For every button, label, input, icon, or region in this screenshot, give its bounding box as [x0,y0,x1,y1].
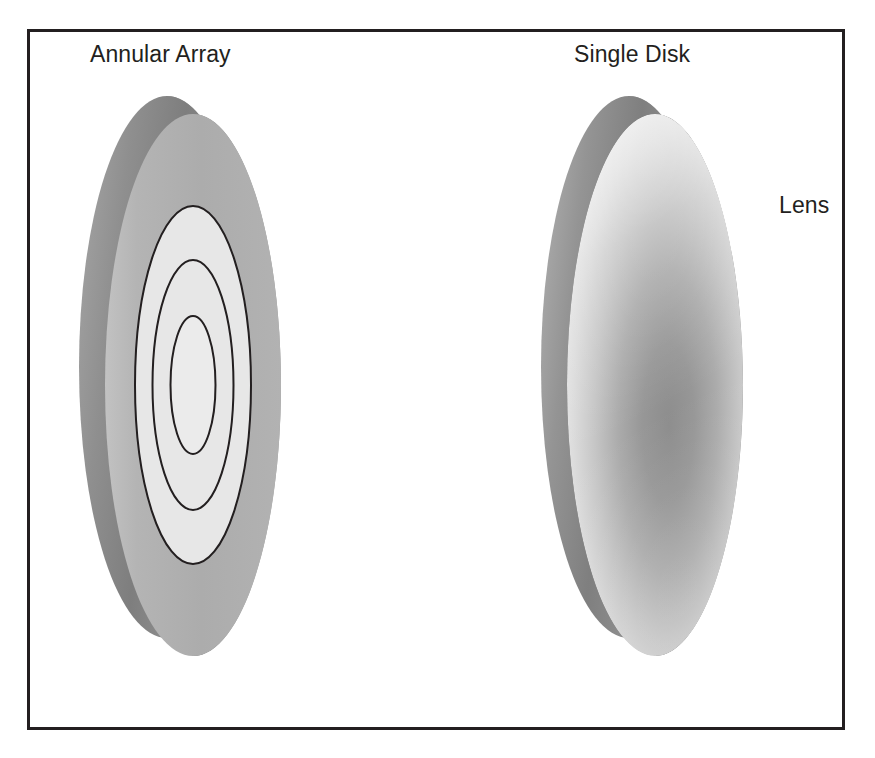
annular-array-ring-4 [171,316,216,454]
figure-root: Annular Array Single Disk Lens [0,0,875,758]
label-annular-array: Annular Array [90,43,231,66]
single-disk-face [567,114,743,656]
figure-canvas [0,0,875,758]
label-lens: Lens [779,194,829,217]
label-single-disk: Single Disk [574,43,690,66]
